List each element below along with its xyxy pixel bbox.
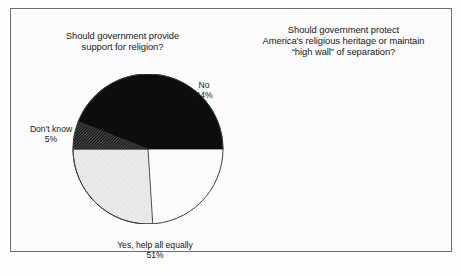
chart-panel-heritage-vs-wall: Should government protect America's reli… — [235, 0, 452, 276]
figure-root: Should government provide support for re… — [0, 0, 461, 276]
chart-title-support-for-religion: Should government provide support for re… — [10, 30, 235, 52]
pie-label-yes-text: Yes, help all equally — [117, 240, 193, 250]
pie-label-no: No 44% — [180, 70, 228, 110]
chart-title-heritage-vs-wall: Should government protect America's reli… — [235, 24, 452, 58]
pie-label-dont-know-left-percent: 5% — [18, 134, 84, 144]
pie-label-yes-percent: 51% — [94, 250, 216, 260]
pie-label-no-text: No — [199, 80, 210, 90]
pie-label-no-percent: 44% — [180, 90, 228, 100]
pie-label-dont-know-left-text: Don't know — [30, 124, 72, 134]
chart-panel-support-for-religion: Should government provide support for re… — [10, 0, 235, 276]
pie-slice-yes-help-all-equally — [73, 149, 153, 224]
pie-label-dont-know-left: Don't know 5% — [18, 114, 84, 154]
pie-label-yes-help-all-equally: Yes, help all equally 51% — [94, 230, 216, 270]
